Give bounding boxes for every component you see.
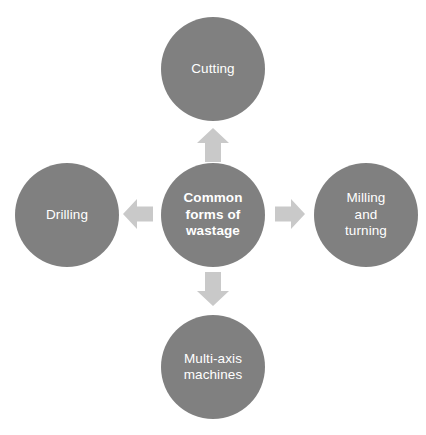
node-center-label: Common forms of wastage — [175, 190, 250, 239]
node-cutting-label: Cutting — [183, 61, 242, 77]
node-milling-and-turning[interactable]: Milling and turning — [314, 163, 418, 267]
arrow-down-icon — [197, 272, 229, 306]
node-multi-axis-machines-label: Multi-axis machines — [176, 351, 251, 384]
diagram-canvas: Cutting Milling and turning Multi-axis m… — [0, 0, 426, 435]
node-milling-and-turning-label: Milling and turning — [337, 190, 395, 239]
node-drilling[interactable]: Drilling — [15, 163, 119, 267]
arrow-left-icon — [123, 199, 153, 229]
arrow-right-icon — [275, 199, 305, 229]
node-drilling-label: Drilling — [38, 207, 96, 223]
node-center-common-forms-of-wastage[interactable]: Common forms of wastage — [161, 163, 265, 267]
node-cutting[interactable]: Cutting — [161, 17, 265, 121]
node-multi-axis-machines[interactable]: Multi-axis machines — [161, 315, 265, 419]
arrow-up-icon — [197, 128, 229, 162]
